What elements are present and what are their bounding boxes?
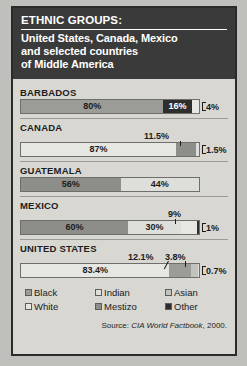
chart-row-guatemala: GUATEMALA 56% 44%: [20, 162, 228, 197]
bar-segment-black: 80%: [21, 100, 163, 113]
bar-segment-other: [176, 143, 196, 156]
bar-area: 60% 30% 9% 1%: [20, 220, 228, 235]
header-subtitle-line-2: and selected countries: [21, 45, 227, 58]
country-label: MEXICO: [20, 200, 228, 211]
header-subtitle-line-3: of Middle America: [21, 58, 227, 71]
stacked-bar: 87%: [20, 142, 200, 157]
legend-item-asian: Asian: [165, 287, 223, 298]
stacked-bar: 56% 44%: [20, 177, 200, 192]
bar-segment-white: 87%: [21, 143, 176, 156]
bar-segment-indian: [196, 143, 199, 156]
legend-item-mestizo: Mestizo: [95, 301, 153, 312]
bar-segment-other: 16%: [163, 100, 191, 113]
bar-segment-mestizo: 56%: [21, 178, 121, 191]
chart-row-mexico: MEXICO 60% 30% 9% 1%: [20, 197, 228, 240]
legend-swatch-white-icon: [25, 303, 32, 310]
callout-black: 12.1%: [128, 252, 154, 262]
chart-row-barbados: BARBADOS 80% 16% 4%: [20, 84, 228, 119]
legend-label: White: [34, 301, 58, 312]
legend-label: Asian: [174, 287, 198, 298]
legend-item-white: White: [25, 301, 83, 312]
leader-tick-other: [180, 141, 181, 146]
page-title: ETHNIC GROUPS:: [21, 14, 227, 30]
bar-segment-indian: 44%: [121, 178, 199, 191]
callout-white: 9%: [168, 209, 181, 219]
bar-segment-other: [197, 221, 199, 234]
legend-label: Other: [174, 301, 198, 312]
callout-indian: 1.5%: [206, 145, 227, 155]
legend-label: Black: [34, 287, 57, 298]
bar-segment-black: [169, 264, 191, 277]
bar-area: 83.4% 12.1% 3.8% 0.7%: [20, 263, 228, 278]
legend-item-black: Black: [25, 287, 83, 298]
legend-item-indian: Indian: [95, 287, 153, 298]
chart-row-united-states: UNITED STATES 83.4% 12.1% 3.8% 0.7%: [20, 240, 228, 282]
callout-white: 4%: [206, 102, 219, 112]
legend-swatch-mestizo-icon: [95, 303, 102, 310]
country-label: BARBADOS: [20, 87, 228, 98]
legend-swatch-indian-icon: [95, 289, 102, 296]
chart-body: BARBADOS 80% 16% 4% CANADA 87% 11: [13, 79, 235, 282]
legend-item-other: Other: [165, 301, 223, 312]
bar-segment-mestizo: 60%: [21, 221, 128, 234]
bar-segment-indian: [198, 264, 199, 277]
callout-other: 11.5%: [144, 131, 169, 141]
legend: Black Indian Asian White Mestizo Ot: [13, 287, 235, 312]
callout-asian: 3.8%: [165, 252, 186, 262]
leader-tick-white: [175, 219, 176, 224]
infographic-card: ETHNIC GROUPS: United States, Canada, Me…: [11, 6, 237, 356]
leader-tick-asian: [185, 261, 186, 267]
bar-segment-asian: [191, 264, 198, 277]
bar-area: 56% 44%: [20, 177, 228, 192]
legend-label: Mestizo: [104, 301, 137, 312]
chart-row-canada: CANADA 87% 11.5% 1.5%: [20, 119, 228, 162]
legend-row-2: White Mestizo Other: [23, 301, 225, 312]
bar-area: 87% 11.5% 1.5%: [20, 142, 228, 157]
legend-label: Indian: [104, 287, 130, 298]
bar-segment-white: [181, 221, 197, 234]
callout-other: 1%: [206, 223, 219, 233]
legend-swatch-asian-icon: [165, 289, 172, 296]
country-label: GUATEMALA: [20, 165, 228, 176]
legend-swatch-other-icon: [165, 303, 172, 310]
bar-segment-indian: 30%: [128, 221, 181, 234]
stacked-bar: 60% 30%: [20, 220, 200, 235]
country-label: UNITED STATES: [20, 243, 228, 254]
source-note: Source: CIA World Factbook, 2000.: [13, 315, 235, 330]
stacked-bar: 83.4%: [20, 263, 200, 278]
source-suffix: , 2000.: [203, 321, 227, 330]
country-label: CANADA: [20, 122, 228, 133]
bar-area: 80% 16% 4%: [20, 99, 228, 114]
header-subtitle-line-1: United States, Canada, Mexico: [21, 32, 227, 45]
source-prefix: Source:: [101, 321, 131, 330]
callout-indian: 0.7%: [206, 266, 227, 276]
stacked-bar: 80% 16%: [20, 99, 200, 114]
legend-swatch-black-icon: [25, 289, 32, 296]
header-subtitle: United States, Canada, Mexico and select…: [21, 32, 227, 72]
source-title: CIA World Factbook: [131, 321, 202, 330]
header-block: ETHNIC GROUPS: United States, Canada, Me…: [13, 8, 235, 79]
legend-row-1: Black Indian Asian: [23, 287, 225, 298]
bar-segment-white: [192, 100, 199, 113]
bar-segment-white: 83.4%: [21, 264, 169, 277]
